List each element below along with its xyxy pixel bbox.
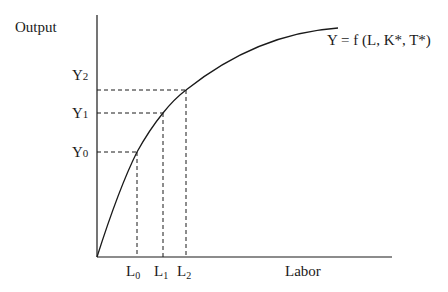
l1-label: L1 [154,264,168,281]
y1-label: Y1 [72,106,88,121]
l0-label: L0 [126,264,140,281]
l0-sub: 0 [135,270,140,281]
l1-sub: 1 [163,270,168,281]
l2-base: L [177,263,186,279]
l1-base: L [154,263,163,279]
y2-sub: 2 [83,70,89,82]
y2-label: Y2 [72,68,88,83]
x-axis-label: Labor [285,264,321,279]
production-curve [97,28,338,257]
y2-base: Y [72,67,83,83]
l2-label: L2 [177,264,191,281]
y-axis-label: Output [15,20,57,35]
y1-sub: 1 [83,108,89,120]
y0-sub: 0 [83,147,89,159]
y0-base: Y [72,144,83,160]
y1-base: Y [72,105,83,121]
l2-sub: 2 [186,270,191,281]
production-function-diagram: Output Y2 Y1 Y0 L0 L1 L2 Labor Y = f (L,… [0,0,448,292]
l0-base: L [126,263,135,279]
y0-label: Y0 [72,145,88,160]
curve-label: Y = f (L, K*, T*) [327,33,431,48]
